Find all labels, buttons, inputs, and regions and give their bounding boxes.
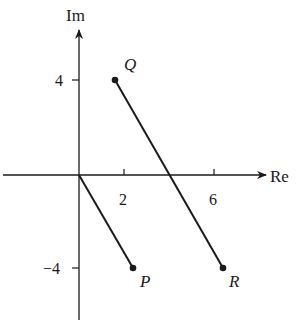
imaginary-axis-label: Im <box>66 6 85 25</box>
segment-qr <box>115 80 223 268</box>
point-r-label: R <box>228 272 240 291</box>
complex-plane-diagram: Re Im 2 6 4 −4 Q P R <box>0 0 296 320</box>
x-tick-label-6: 6 <box>209 191 217 208</box>
y-tick-label-neg4: −4 <box>43 260 60 277</box>
point-p <box>130 265 137 272</box>
point-r <box>220 265 227 272</box>
point-p-label: P <box>139 272 150 291</box>
point-q <box>112 77 119 84</box>
x-tick-label-2: 2 <box>119 191 127 208</box>
point-q-label: Q <box>124 55 136 74</box>
y-tick-label-4: 4 <box>55 72 63 89</box>
real-axis-label: Re <box>270 167 289 186</box>
segment-op <box>79 175 133 268</box>
